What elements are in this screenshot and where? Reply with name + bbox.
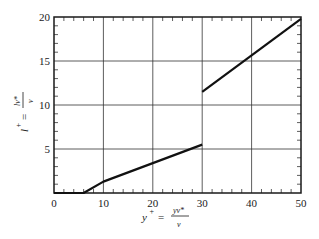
y-tick-label: 15 <box>39 55 51 67</box>
svg-text:l: l <box>18 129 30 132</box>
x-tick-label: 0 <box>51 197 57 209</box>
svg-text:lv*: lv* <box>13 96 22 106</box>
x-tick-label: 30 <box>197 197 209 209</box>
x-tick-label: 50 <box>296 197 308 209</box>
y-tick-label: 20 <box>39 11 51 23</box>
x-tick-label: 40 <box>246 197 258 209</box>
y-axis-label: l + = lv* ν <box>13 92 35 132</box>
svg-text:+: + <box>149 207 154 216</box>
grid-lines <box>54 17 301 193</box>
svg-text:yv*: yv* <box>172 206 184 215</box>
x-axis-label: y + = yv* ν <box>141 206 189 229</box>
svg-text:ν: ν <box>177 220 181 229</box>
y-tick-labels: 5101520 <box>39 11 51 155</box>
chart-svg: 01020304050 5101520 y + = yv* ν l + = lv… <box>0 0 319 239</box>
svg-text:+: + <box>14 123 23 128</box>
x-tick-label: 10 <box>98 197 110 209</box>
y-tick-label: 10 <box>39 99 51 111</box>
svg-text:=: = <box>158 211 164 223</box>
svg-text:y: y <box>141 211 147 223</box>
svg-text:=: = <box>18 114 30 120</box>
y-tick-label: 5 <box>45 143 51 155</box>
svg-text:ν: ν <box>26 99 35 103</box>
data-series <box>54 19 301 193</box>
series-line-segment-1 <box>54 145 202 193</box>
